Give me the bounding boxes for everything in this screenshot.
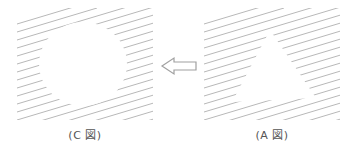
- caption-c: (C 図): [45, 126, 125, 142]
- panel-a-hatched-triangle-void: [204, 8, 340, 120]
- panel-c-hatched-circle-void: [17, 8, 153, 120]
- arrow-left-outline-icon: [160, 56, 200, 76]
- caption-a: (A 図): [232, 126, 312, 142]
- circle-void: [39, 22, 127, 106]
